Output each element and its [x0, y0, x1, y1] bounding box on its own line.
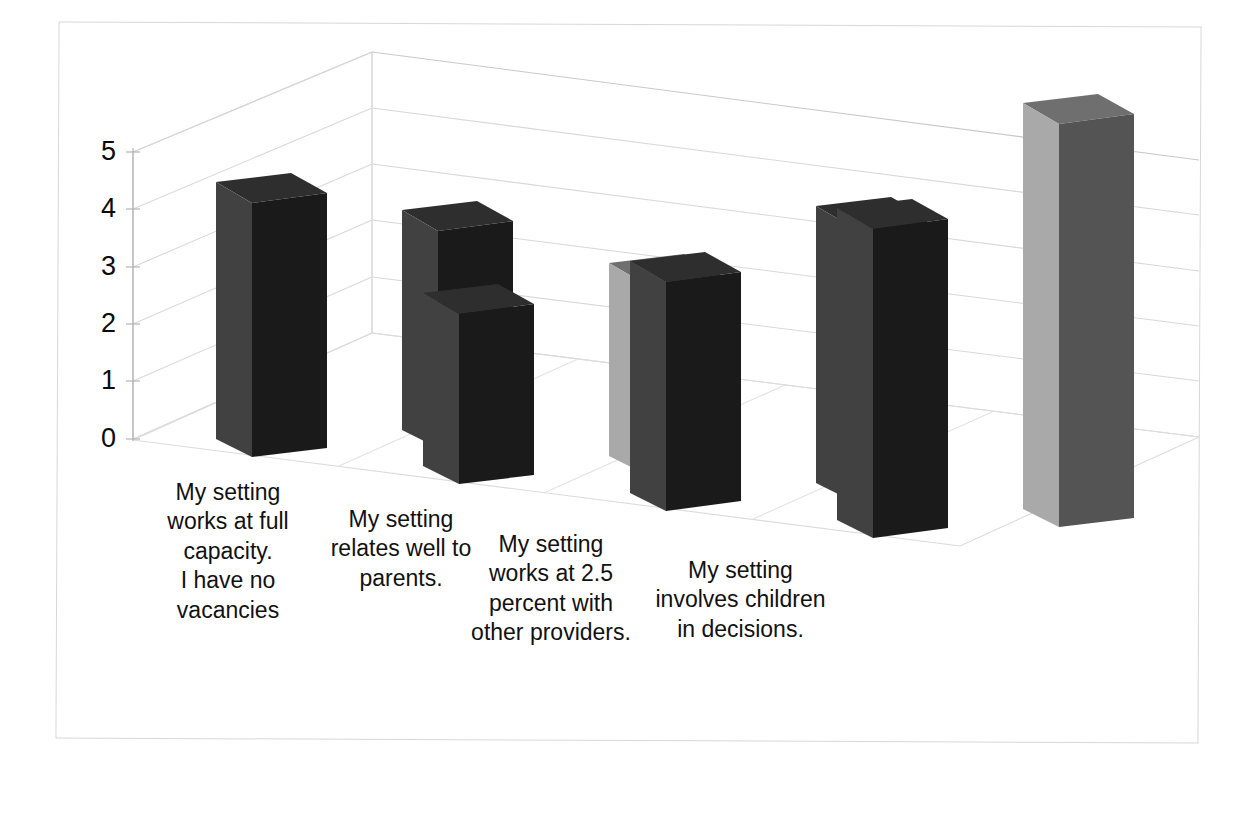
bar-front-4[interactable] [837, 199, 948, 538]
bar-front-2[interactable] [423, 284, 534, 484]
category-label-4-line-1: My setting [638, 556, 843, 585]
bar-back-4[interactable] [1023, 94, 1134, 527]
category-label-1-line-2: works at full [148, 507, 308, 536]
category-label-4: My setting involves children in decision… [638, 556, 843, 644]
category-label-3-line-3: percent with [456, 589, 646, 618]
category-label-1: My setting works at full capacity. I hav… [148, 478, 308, 625]
category-label-3-line-4: other providers. [456, 618, 646, 647]
category-label-3-line-1: My setting [456, 530, 646, 559]
category-label-3-line-2: works at 2.5 [456, 559, 646, 588]
bar-front-3[interactable] [630, 252, 741, 511]
y-axis [126, 148, 140, 441]
category-label-1-line-1: My setting [148, 478, 308, 507]
bars-front-row [216, 173, 948, 538]
category-label-1-line-4: I have no [148, 566, 308, 595]
y-tick-label-0: 0 [76, 425, 116, 452]
category-label-4-line-2: involves children [638, 585, 843, 614]
y-tick-label-2: 2 [76, 310, 116, 337]
y-tick-label-5: 5 [76, 138, 116, 165]
chart-plot-area: 5 4 3 2 1 0 My setting works at full cap… [0, 0, 1255, 823]
chart-3d-scene [0, 0, 1255, 823]
category-label-1-line-3: capacity. [148, 537, 308, 566]
category-label-1-line-5: vacancies [148, 596, 308, 625]
category-label-3: My setting works at 2.5 percent with oth… [456, 530, 646, 648]
category-label-4-line-3: in decisions. [638, 615, 843, 644]
chart-page: 5 4 3 2 1 0 My setting works at full cap… [0, 0, 1255, 823]
y-tick-label-4: 4 [76, 195, 116, 222]
y-tick-label-3: 3 [76, 253, 116, 280]
y-tick-label-1: 1 [76, 367, 116, 394]
bar-front-1[interactable] [216, 173, 327, 457]
